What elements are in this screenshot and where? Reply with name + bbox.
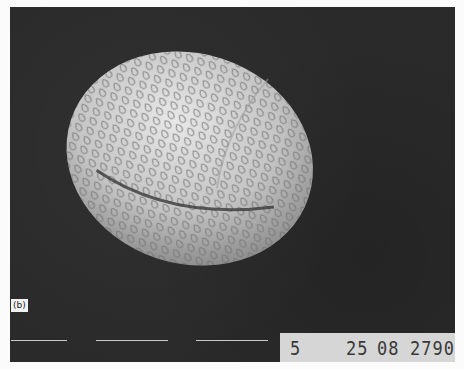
scale-bar-3 xyxy=(196,340,268,341)
sem-databar: 5 25 08 2790 xyxy=(280,333,455,362)
scale-bar-1 xyxy=(11,340,67,341)
databar-field-4: 2790 xyxy=(410,337,455,359)
pollen-grain-image xyxy=(10,7,455,362)
scale-bar-2 xyxy=(96,340,168,341)
panel-label: (b) xyxy=(11,299,28,312)
databar-field-2: 25 xyxy=(346,337,368,359)
pollen-grain xyxy=(38,20,341,297)
databar-field-3: 08 xyxy=(377,337,399,359)
databar-field-1: 5 xyxy=(290,337,301,359)
micrograph-frame: (b) xyxy=(10,7,455,362)
